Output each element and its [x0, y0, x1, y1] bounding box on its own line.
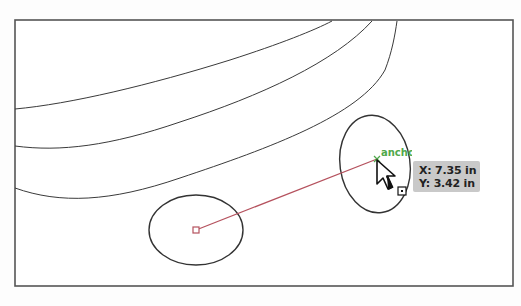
center-point-marker[interactable]: [193, 227, 199, 233]
artboard-frame: [15, 20, 513, 286]
snap-square-icon: [398, 187, 406, 195]
coordinates-tooltip: X: 7.35 in Y: 3.42 in: [413, 161, 480, 192]
smart-guide-anchor-label: anchor: [381, 147, 412, 158]
y-coordinate: Y: 3.42 in: [419, 177, 480, 190]
artboard-canvas[interactable]: [0, 0, 521, 306]
x-coordinate: X: 7.35 in: [419, 164, 480, 177]
